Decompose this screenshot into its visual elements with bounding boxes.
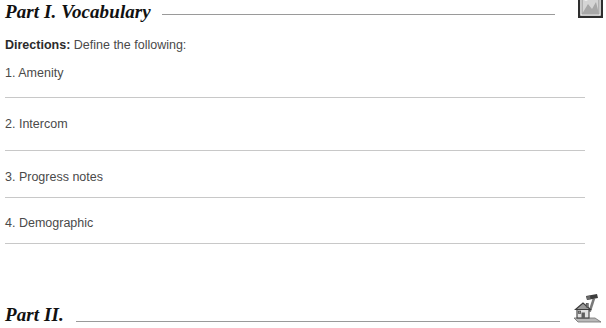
framed-picture-icon	[578, 0, 603, 18]
list-item: 4. Demographic	[5, 216, 93, 230]
part-2-title: Part II.	[5, 304, 64, 326]
answer-line-2[interactable]	[5, 150, 585, 151]
part-2-heading-rule	[76, 321, 560, 322]
answer-line-3[interactable]	[5, 197, 585, 198]
vocab-item-number: 4.	[5, 216, 15, 230]
list-item: 3. Progress notes	[5, 170, 103, 184]
vocab-item-number: 3.	[5, 170, 15, 184]
directions-label: Directions:	[5, 38, 70, 52]
worksheet-page: Part I. Vocabulary Directions: Define th…	[0, 0, 606, 328]
vocab-item-number: 1.	[5, 66, 15, 80]
vocab-item-term: Progress notes	[19, 170, 103, 184]
list-item: 2. Intercom	[5, 117, 68, 131]
vocab-item-term: Intercom	[19, 117, 68, 131]
part-1-heading-rule	[162, 14, 555, 15]
list-item: 1. Amenity	[5, 66, 63, 80]
part-1-title: Part I. Vocabulary	[5, 1, 151, 23]
answer-line-1[interactable]	[5, 97, 585, 98]
directions-text: Define the following:	[70, 38, 186, 52]
vocab-item-number: 2.	[5, 117, 15, 131]
answer-line-4[interactable]	[5, 243, 585, 244]
vocab-item-term: Amenity	[18, 66, 63, 80]
directions-line: Directions: Define the following:	[5, 38, 186, 52]
house-with-hammer-icon	[573, 293, 603, 324]
vocab-item-term: Demographic	[19, 216, 93, 230]
